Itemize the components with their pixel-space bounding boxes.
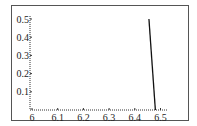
x-tick-label: 6.5: [154, 112, 167, 123]
y-tick-label: 0.5: [17, 14, 30, 25]
x-tick-label: 6: [30, 112, 35, 123]
line-chart: 66.16.26.36.46.5 0.10.20.30.40.5: [0, 0, 197, 126]
y-tick-label: 0.3: [17, 50, 30, 61]
data-series: [149, 19, 155, 110]
x-tick-label: 6.3: [103, 112, 116, 123]
y-tick-label: 0.1: [17, 86, 30, 97]
x-tick-label: 6.4: [129, 112, 142, 123]
axes: [30, 16, 168, 110]
x-tick-label: 6.1: [51, 112, 64, 123]
x-tick-label: 6.2: [77, 112, 90, 123]
series-line: [149, 19, 155, 110]
y-tick-label: 0.2: [17, 68, 30, 79]
y-tick-label: 0.4: [17, 32, 30, 43]
